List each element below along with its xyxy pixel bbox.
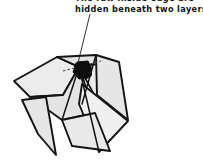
origami-diagram-figure: The raw inside edge are hidden beneath t… <box>0 0 203 164</box>
origami-illustration <box>0 0 203 164</box>
paper-facets <box>14 55 128 155</box>
